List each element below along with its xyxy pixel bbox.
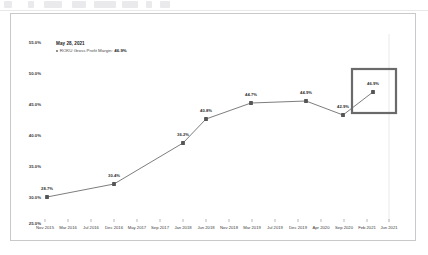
tooltip-date: May 28, 2021	[56, 41, 127, 47]
toolbar-item[interactable]	[122, 1, 138, 8]
series-color-dot-icon	[56, 50, 58, 52]
data-point-selected[interactable]	[371, 90, 375, 94]
toolbar-item[interactable]	[4, 1, 12, 8]
tooltip-series-row: ROKU Gross Profit Margin: 46.9%	[56, 48, 127, 54]
toolbar-item[interactable]	[160, 1, 170, 8]
data-point[interactable]	[204, 117, 208, 121]
y-axis-label: 35.0%	[13, 164, 41, 169]
data-point-label: 42.9%	[329, 104, 357, 109]
data-point[interactable]	[249, 101, 253, 105]
data-point-label: 44.7%	[237, 92, 265, 97]
y-axis-label: 40.0%	[13, 133, 41, 138]
y-axis-label: 50.0%	[13, 71, 41, 76]
data-point[interactable]	[112, 182, 116, 186]
x-axis-label: Jun 2021	[371, 225, 407, 230]
y-axis-label: 45.0%	[13, 102, 41, 107]
data-point-label: 36.2%	[169, 132, 197, 137]
chart-screenshot: 55.0% 50.0% 45.0% 40.0% 35.0% 30.0% 25.0…	[0, 0, 428, 255]
x-axis-ticks	[45, 219, 389, 222]
toolbar-divider	[0, 10, 428, 11]
toolbar-item[interactable]	[28, 1, 34, 8]
series-markers	[45, 90, 375, 199]
app-toolbar[interactable]	[0, 0, 428, 11]
data-point-label: 44.9%	[292, 90, 320, 95]
data-point-label: 28.7%	[33, 186, 61, 191]
y-axis-label: 55.0%	[13, 40, 41, 45]
data-point-label: 30.4%	[100, 173, 128, 178]
toolbar-item[interactable]	[94, 1, 116, 8]
data-point[interactable]	[181, 141, 185, 145]
toolbar-item[interactable]	[72, 1, 86, 8]
toolbar-item[interactable]	[146, 1, 152, 8]
chart-tooltip: May 28, 2021 ROKU Gross Profit Margin: 4…	[56, 41, 127, 53]
tooltip-series-label: ROKU Gross Profit Margin:	[60, 48, 113, 54]
tooltip-series-value: 46.9%	[114, 48, 126, 54]
data-point[interactable]	[45, 195, 49, 199]
data-point-label: 40.8%	[192, 108, 220, 113]
chart-card: 55.0% 50.0% 45.0% 40.0% 35.0% 30.0% 25.0…	[10, 13, 416, 241]
toolbar-item[interactable]	[44, 1, 62, 8]
data-point[interactable]	[341, 113, 345, 117]
data-point-label-selected: 46.9%	[359, 81, 387, 86]
data-point[interactable]	[304, 99, 308, 103]
y-axis-label: 30.0%	[13, 195, 41, 200]
